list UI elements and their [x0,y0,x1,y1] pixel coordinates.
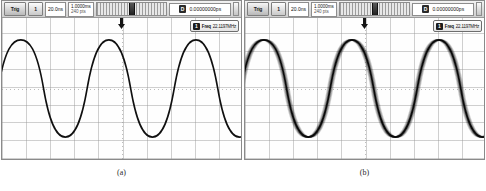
trigger-position-marker-a[interactable] [118,18,125,29]
channel-button-b[interactable]: 1 [271,2,286,16]
panel-caption-b: (b) [243,168,486,177]
delay-label: D [422,5,430,13]
panel-caption-a: (a) [0,168,243,177]
horizontal-position-scrollbar-a[interactable] [96,2,167,16]
measurement-badge-b[interactable]: 1 Freq 22.1197MHz [433,20,482,32]
channel-button-label: 1 [34,6,37,12]
trigger-button-a[interactable]: Trig [4,2,26,16]
graticule-a [2,18,241,159]
measurement-value: 22.1197MHz [213,24,236,29]
timebase-field-b[interactable]: 20.0ns [288,2,309,17]
measurement-badge-a[interactable]: 1 Freq 22.1197MHz [190,20,239,32]
timebase-value: 20.0ns [291,6,306,12]
waveform-trace-b [245,18,484,159]
toolbar-end-cap-a [233,2,239,16]
measurement-channel-label: 1 [193,23,200,30]
graticule-b [245,18,484,159]
record-length-line2: 240 pts [71,9,91,15]
delay-readout-a[interactable]: D 0.00000000ps [169,3,231,16]
trigger-position-marker-b[interactable] [361,18,368,29]
delay-value: 0.00000000ps [432,6,464,12]
timebase-value: 20.0ns [48,6,63,12]
panel-a: Trig 1 20.0ns 1.0000ms 240 pts D 0.0000 [0,0,243,191]
record-length-line2: 240 pts [314,9,334,15]
scrollbar-thumb[interactable] [372,3,378,15]
horizontal-position-scrollbar-b[interactable] [339,2,410,16]
trigger-button-label: Trig [11,6,19,12]
measurement-name: Freq [445,24,454,29]
delay-value: 0.00000000ps [189,6,221,12]
measurement-name: Freq [202,24,211,29]
channel-button-a[interactable]: 1 [28,2,43,16]
record-length-field-a[interactable]: 1.0000ms 240 pts [68,2,94,17]
toolbar-end-cap-b [476,2,482,16]
waveform-trace-a [2,18,241,159]
figure-two-scope-captures: Trig 1 20.0ns 1.0000ms 240 pts D 0.0000 [0,0,486,191]
oscilloscope-screen-a: Trig 1 20.0ns 1.0000ms 240 pts D 0.0000 [1,0,242,160]
trigger-button-label: Trig [254,6,262,12]
scope-toolbar-a: Trig 1 20.0ns 1.0000ms 240 pts D 0.0000 [2,1,241,18]
oscilloscope-screen-b: Trig 1 20.0ns 1.0000ms 240 pts D 0.0000 [244,0,485,160]
channel-button-label: 1 [277,6,280,12]
scope-toolbar-b: Trig 1 20.0ns 1.0000ms 240 pts D 0.0000 [245,1,484,18]
scrollbar-thumb[interactable] [129,3,135,15]
measurement-channel-label: 1 [436,23,443,30]
panel-b: Trig 1 20.0ns 1.0000ms 240 pts D 0.0000 [243,0,486,191]
trigger-button-b[interactable]: Trig [247,2,269,16]
measurement-value: 22.1197MHz [456,24,479,29]
record-length-field-b[interactable]: 1.0000ms 240 pts [311,2,337,17]
timebase-field-a[interactable]: 20.0ns [45,2,66,17]
delay-label: D [179,5,187,13]
delay-readout-b[interactable]: D 0.00000000ps [412,3,474,16]
